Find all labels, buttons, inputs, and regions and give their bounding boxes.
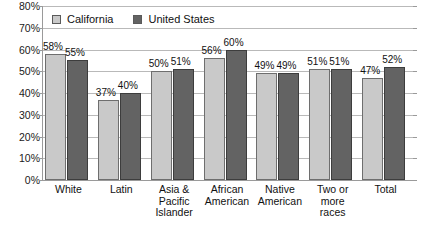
bar-value-label: 51% bbox=[171, 57, 191, 67]
bar-value-label: 60% bbox=[224, 38, 244, 48]
y-axis-tick-mark-right bbox=[413, 6, 417, 7]
y-axis-tick-label: 80% bbox=[0, 1, 40, 12]
x-axis-category-line: Native bbox=[253, 184, 306, 196]
bar-california[interactable] bbox=[45, 54, 66, 180]
bars-layer: 58%55%37%40%50%51%56%60%49%49%51%51%47%5… bbox=[42, 6, 412, 180]
grouped-bar-chart: 0%10%20%30%40%50%60%70%80% CaliforniaUni… bbox=[0, 0, 428, 233]
y-axis-tick-label: 50% bbox=[0, 66, 40, 77]
bar-united-states[interactable] bbox=[226, 50, 247, 181]
bar-california[interactable] bbox=[362, 78, 383, 180]
x-axis-category-total: Total bbox=[359, 184, 412, 196]
y-axis-tick-mark-right bbox=[413, 158, 417, 159]
legend-swatch-icon bbox=[52, 15, 61, 24]
x-axis-category-native-american: NativeAmerican bbox=[253, 184, 306, 207]
bar-california[interactable] bbox=[98, 100, 119, 180]
bar-value-label: 47% bbox=[360, 66, 380, 76]
legend-item-united-states[interactable]: United States bbox=[133, 14, 214, 25]
bar-california[interactable] bbox=[204, 58, 225, 180]
bar-united-states[interactable] bbox=[120, 93, 141, 180]
x-axis-category-line: Islander bbox=[148, 207, 201, 219]
legend-item-california[interactable]: California bbox=[52, 14, 113, 25]
x-axis-category-line: Total bbox=[359, 184, 412, 196]
x-axis-category-line: White bbox=[42, 184, 95, 196]
bar-value-label: 51% bbox=[307, 57, 327, 67]
y-axis-tick-label: 20% bbox=[0, 131, 40, 142]
bar-united-states[interactable] bbox=[384, 67, 405, 180]
x-axis-category-african-american: AfricanAmerican bbox=[201, 184, 254, 207]
y-axis-tick-label: 30% bbox=[0, 110, 40, 121]
bar-value-label: 50% bbox=[149, 59, 169, 69]
x-axis-category-line: races bbox=[306, 207, 359, 219]
legend-swatch-icon bbox=[133, 15, 142, 24]
y-axis-tick-mark-right bbox=[413, 93, 417, 94]
y-axis-tick-mark-right bbox=[413, 180, 417, 181]
y-axis-tick-label: 70% bbox=[0, 23, 40, 34]
bar-value-label: 58% bbox=[43, 42, 63, 52]
x-axis-category-line: Two or bbox=[306, 184, 359, 196]
x-axis-category-latin: Latin bbox=[95, 184, 148, 196]
x-axis-category-line: American bbox=[201, 196, 254, 208]
x-axis-category-line: Asia & bbox=[148, 184, 201, 196]
y-axis-tick-mark-right bbox=[413, 28, 417, 29]
bar-california[interactable] bbox=[309, 69, 330, 180]
bar-value-label: 49% bbox=[276, 61, 296, 71]
bar-group bbox=[42, 6, 95, 180]
bar-california[interactable] bbox=[151, 71, 172, 180]
x-axis-category-line: Latin bbox=[95, 184, 148, 196]
y-axis-tick-label: 0% bbox=[0, 175, 40, 186]
y-axis-tick-label: 40% bbox=[0, 88, 40, 99]
bar-value-label: 40% bbox=[118, 81, 138, 91]
y-axis-tick-label: 60% bbox=[0, 44, 40, 55]
x-axis-category-two-or-more-races: Two ormoreraces bbox=[306, 184, 359, 219]
legend-label: United States bbox=[148, 14, 214, 25]
x-axis-category-line: African bbox=[201, 184, 254, 196]
bar-value-label: 55% bbox=[65, 48, 85, 58]
y-axis-tick-mark-right bbox=[413, 50, 417, 51]
y-axis-tick-mark bbox=[39, 180, 43, 181]
bar-california[interactable] bbox=[256, 73, 277, 180]
bar-group bbox=[253, 6, 306, 180]
y-axis-tick-mark-right bbox=[413, 71, 417, 72]
x-axis-category-asia-pacific-islander: Asia &PacificIslander bbox=[148, 184, 201, 219]
x-axis-category-labels: WhiteLatinAsia &PacificIslanderAfricanAm… bbox=[42, 184, 412, 233]
bar-value-label: 52% bbox=[382, 55, 402, 65]
bar-united-states[interactable] bbox=[278, 73, 299, 180]
bar-group bbox=[359, 6, 412, 180]
bar-value-label: 51% bbox=[329, 57, 349, 67]
bar-group bbox=[148, 6, 201, 180]
bar-united-states[interactable] bbox=[173, 69, 194, 180]
bar-group bbox=[306, 6, 359, 180]
bar-united-states[interactable] bbox=[67, 60, 88, 180]
x-axis-category-line: American bbox=[253, 196, 306, 208]
x-axis-category-white: White bbox=[42, 184, 95, 196]
legend-label: California bbox=[67, 14, 113, 25]
y-axis-tick-label: 10% bbox=[0, 153, 40, 164]
bar-value-label: 56% bbox=[202, 46, 222, 56]
bar-group bbox=[201, 6, 254, 180]
y-axis-tick-mark-right bbox=[413, 137, 417, 138]
chart-legend: CaliforniaUnited States bbox=[52, 14, 215, 25]
bar-value-label: 49% bbox=[254, 61, 274, 71]
y-axis: 0%10%20%30%40%50%60%70%80% bbox=[0, 0, 40, 181]
bar-value-label: 37% bbox=[96, 88, 116, 98]
y-axis-tick-mark-right bbox=[413, 115, 417, 116]
bar-united-states[interactable] bbox=[331, 69, 352, 180]
